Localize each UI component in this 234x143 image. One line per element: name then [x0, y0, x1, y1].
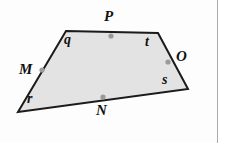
geometry-figure	[0, 0, 234, 143]
point-label-P: P	[104, 9, 113, 24]
segment-label-s: s	[162, 73, 167, 87]
screenshot-canvas: P O M N q t s r	[0, 0, 234, 143]
segment-label-t: t	[145, 35, 149, 49]
point-label-N: N	[96, 103, 107, 118]
segment-label-q: q	[64, 33, 71, 47]
point-dot-O	[165, 59, 170, 64]
point-dot-M	[39, 67, 44, 72]
point-label-M: M	[19, 62, 32, 77]
point-label-O: O	[176, 49, 187, 64]
point-dot-N	[100, 94, 105, 99]
point-dot-P	[108, 33, 113, 38]
segment-label-r: r	[27, 92, 32, 106]
